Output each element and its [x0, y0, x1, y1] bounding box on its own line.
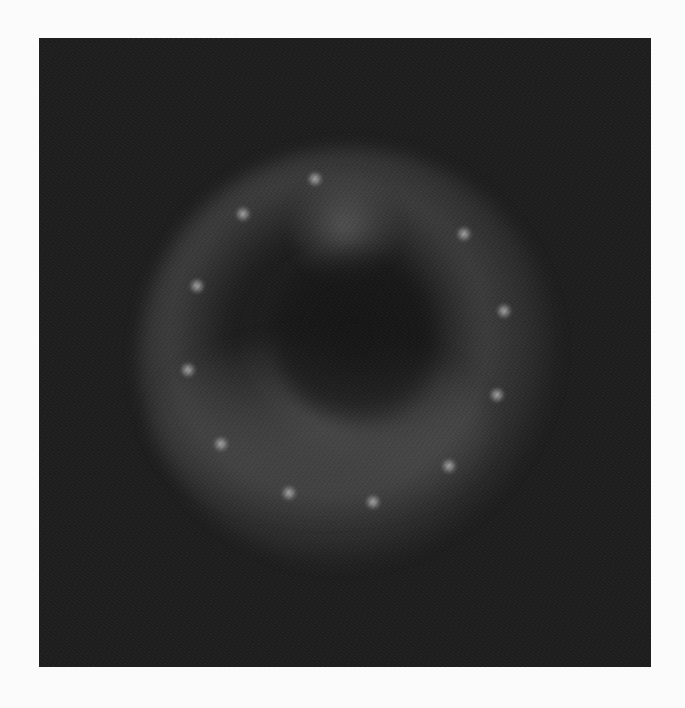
- diffraction-image: [39, 38, 651, 667]
- diffraction-spot: [496, 303, 512, 319]
- diffraction-spot: [189, 278, 205, 294]
- diffraction-spot: [441, 458, 457, 474]
- diffraction-spot: [180, 362, 196, 378]
- diffraction-spot: [235, 206, 251, 222]
- diffraction-spot: [307, 171, 323, 187]
- diffraction-spot: [456, 226, 472, 242]
- diffraction-spot: [281, 485, 297, 501]
- diffraction-spot: [365, 494, 381, 510]
- diffraction-spot: [489, 387, 505, 403]
- diffraction-spot: [213, 436, 229, 452]
